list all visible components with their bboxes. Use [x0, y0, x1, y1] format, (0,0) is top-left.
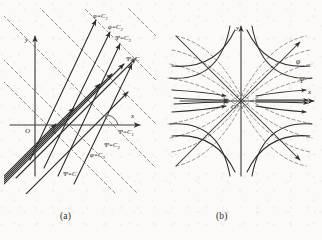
panel-a-origin-label: O [25, 127, 30, 135]
panel-b-x-axis-label: x [308, 88, 311, 96]
panel-a-label-psi-c1: Ψ=C1 [118, 129, 134, 138]
panel-b-y-axis-label: y [236, 24, 239, 32]
panel-a-label-psi-c3: Ψ=C3 [115, 35, 131, 44]
panel-b-label-psi: Ψ [299, 77, 304, 85]
panel-a-label-psi-c: Ψ=C [126, 56, 140, 63]
caption-a: (a) [60, 211, 71, 221]
panel-a-angle-label: α [105, 112, 108, 118]
panel-a-label-psi-c2: Ψ=C2 [104, 142, 120, 151]
panel-a-y-axis-label: y [25, 36, 28, 44]
panel-a-angle-arc [108, 115, 118, 125]
panel-a-x-axis-label: x [131, 112, 134, 120]
panel-a-label-phi-c3: φ=C3 [90, 152, 105, 161]
panel-b [168, 26, 314, 176]
panel-a-label-phi-c2: φ=C2 [108, 24, 123, 33]
figure-canvas [0, 0, 322, 240]
panel-a-label-phi-c1: φ=C1 [93, 13, 108, 22]
caption-b: (b) [216, 211, 228, 221]
panel-a-dashed-lines [0, 0, 252, 198]
panel-a-label-psi-c-lower: Ψ=C [63, 171, 77, 178]
panel-b-label-phi: φ [296, 58, 300, 66]
panel-b-origin-label: O [231, 103, 236, 111]
